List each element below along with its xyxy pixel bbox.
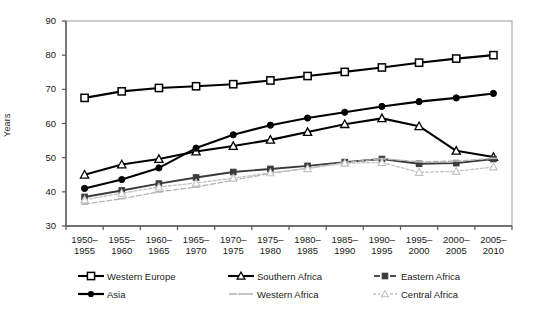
data-point-asia-3 — [193, 145, 199, 151]
series-line-0 — [85, 55, 494, 98]
legend-row-2: AsiaWestern AfricaCentral Africa — [0, 288, 536, 304]
legend-item-central-africa[interactable]: Central Africa — [372, 288, 458, 300]
data-point-asia-0 — [81, 185, 87, 191]
data-point-asia-2 — [156, 165, 162, 171]
series-asia — [81, 90, 496, 191]
data-point-western-europe-7 — [341, 68, 348, 75]
legend-label: Central Africa — [401, 289, 458, 300]
data-point-asia-7 — [342, 109, 348, 115]
data-point-asia-9 — [416, 99, 422, 105]
legend-label: Asia — [107, 289, 125, 300]
legend-item-western-europe[interactable]: Western Europe — [78, 270, 175, 282]
data-point-asia-8 — [379, 103, 385, 109]
data-point-asia-10 — [453, 95, 459, 101]
data-point-western-europe-2 — [155, 84, 162, 91]
series-western-africa — [81, 158, 497, 204]
legend-item-asia[interactable]: Asia — [78, 288, 125, 300]
data-point-western-europe-5 — [267, 77, 274, 84]
series-western-europe — [81, 52, 497, 102]
data-point-western-europe-9 — [415, 59, 422, 66]
series-line-3 — [85, 93, 494, 188]
data-point-western-europe-0 — [81, 94, 88, 101]
data-point-western-europe-1 — [118, 88, 125, 95]
legend-label: Eastern Africa — [401, 271, 460, 282]
data-point-western-europe-6 — [304, 72, 311, 79]
data-point-western-europe-10 — [453, 55, 460, 62]
legend-item-western-africa[interactable]: Western Africa — [228, 288, 319, 300]
legend-label: Western Europe — [107, 271, 175, 282]
plot-border — [66, 21, 512, 226]
series-southern-africa — [80, 114, 497, 178]
legend-row-1: Western EuropeSouthern AfricaEastern Afr… — [0, 270, 536, 286]
data-point-asia-11 — [490, 90, 496, 96]
data-point-asia-4 — [230, 132, 236, 138]
legend-swatch — [372, 288, 398, 300]
data-point-asia-5 — [267, 122, 273, 128]
data-point-western-europe-4 — [230, 81, 237, 88]
legend-item-eastern-africa[interactable]: Eastern Africa — [372, 270, 460, 282]
data-point-western-europe-3 — [192, 83, 199, 90]
legend-label: Southern Africa — [257, 271, 322, 282]
data-point-western-europe-8 — [378, 64, 385, 71]
legend-swatch — [78, 288, 104, 300]
data-point-asia-6 — [304, 115, 310, 121]
legend-swatch — [78, 270, 104, 282]
series-eastern-africa — [82, 156, 496, 200]
data-point-asia-1 — [119, 176, 125, 182]
series-line-1 — [85, 118, 494, 174]
legend-item-southern-africa[interactable]: Southern Africa — [228, 270, 322, 282]
series-central-africa — [81, 159, 497, 203]
plot-area — [0, 0, 536, 310]
data-point-western-europe-11 — [490, 52, 497, 59]
series-line-4 — [85, 158, 494, 204]
legend-swatch — [228, 270, 254, 282]
legend-label: Western Africa — [257, 289, 319, 300]
series-line-2 — [85, 159, 494, 197]
life-expectancy-line-chart: Years 90807060504030 1950–19551955–19601… — [0, 0, 536, 310]
data-point-central-africa-11 — [490, 163, 497, 170]
legend-swatch — [228, 288, 254, 300]
legend-swatch — [372, 270, 398, 282]
